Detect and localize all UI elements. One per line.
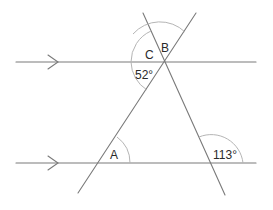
- label-52-degrees: 52°: [135, 68, 153, 82]
- angle-b-arc: [133, 22, 185, 34]
- label-c: C: [145, 48, 154, 62]
- label-113-degrees: 113°: [213, 148, 237, 162]
- transversal-line-b-113: [143, 13, 225, 195]
- geometry-diagram: B C 52° A 113°: [0, 0, 273, 210]
- label-b: B: [161, 41, 169, 55]
- label-a: A: [110, 148, 118, 162]
- transversal-line-ab: [78, 13, 196, 193]
- angle-a-arc: [117, 137, 130, 163]
